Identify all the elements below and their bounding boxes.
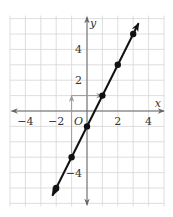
- x-tick-label: −2: [48, 115, 64, 128]
- origin-label: O: [74, 115, 83, 128]
- y-tick-label: 4: [75, 43, 82, 56]
- tick-labels: x y O −4−22442−4: [17, 17, 161, 179]
- x-tick-label: 2: [114, 115, 121, 128]
- coordinate-plane: x y O −4−22442−4: [0, 0, 173, 217]
- data-point: [68, 154, 74, 160]
- data-point: [130, 31, 136, 37]
- data-point: [99, 92, 105, 98]
- axes: [12, 17, 164, 205]
- x-tick-label: 4: [145, 115, 152, 128]
- data-point: [84, 123, 90, 129]
- y-axis-label: y: [89, 17, 97, 30]
- data-point: [53, 185, 59, 191]
- x-tick-label: −4: [17, 115, 33, 128]
- y-tick-label: −4: [66, 167, 82, 180]
- x-axis-label: x: [155, 97, 162, 110]
- y-tick-label: 2: [75, 74, 82, 87]
- data-point: [115, 62, 121, 68]
